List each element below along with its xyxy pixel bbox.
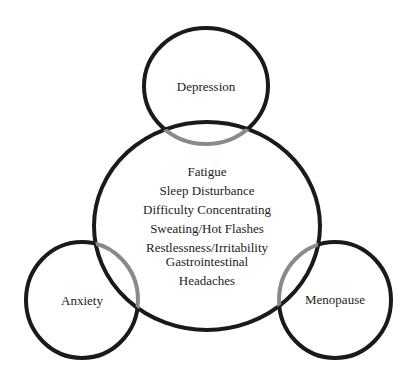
symptom-restlessness-irritability: Restlessness/Irritability: [146, 240, 269, 255]
symptom-headaches: Headaches: [179, 273, 235, 288]
symptom-difficulty-concentrating: Difficulty Concentrating: [143, 202, 271, 217]
menopause-label: Menopause: [305, 292, 365, 307]
depression-label: Depression: [177, 79, 236, 94]
anxiety-label: Anxiety: [61, 293, 103, 308]
venn-diagram: Depression Anxiety Menopause Fatigue Sle…: [0, 0, 413, 380]
symptom-fatigue: Fatigue: [188, 164, 227, 179]
symptom-sleep-disturbance: Sleep Disturbance: [160, 183, 255, 198]
symptom-gastrointestinal: Gastrointestinal: [166, 254, 249, 269]
symptom-sweating-hot-flashes: Sweating/Hot Flashes: [150, 221, 264, 236]
